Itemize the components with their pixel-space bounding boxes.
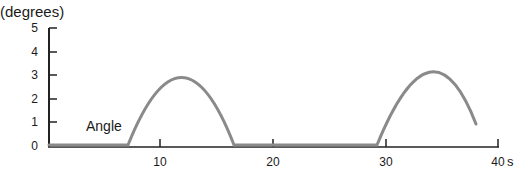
angle-line-chart: (degrees) 0 1 2 3 4 5 10 20 30 40 s Angl…	[0, 0, 518, 170]
angle-series-line	[49, 72, 476, 145]
plot-area	[0, 0, 518, 170]
